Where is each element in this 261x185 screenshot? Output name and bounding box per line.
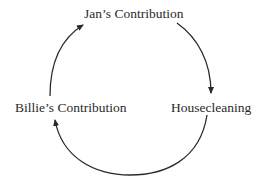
cycle-diagram: Jan’s Contribution Housecleaning Billie’…	[0, 0, 261, 185]
arrow-housecleaning-to-billie	[55, 115, 207, 175]
node-jans-contribution: Jan’s Contribution	[84, 7, 183, 21]
arrow-billie-to-jan	[50, 25, 83, 96]
arrows-layer	[0, 0, 261, 185]
arrow-jan-to-housecleaning	[177, 23, 211, 93]
node-housecleaning: Housecleaning	[171, 101, 251, 115]
node-billies-contribution: Billie’s Contribution	[15, 101, 126, 115]
